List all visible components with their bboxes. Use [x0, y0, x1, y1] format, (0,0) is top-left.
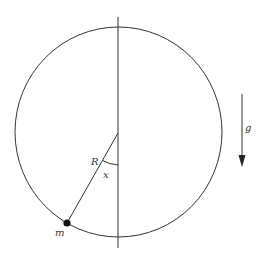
diagram-svg: R x m g [0, 0, 264, 254]
angle-label: x [103, 169, 109, 180]
radius-label: R [90, 156, 99, 167]
pendulum-hoop-diagram: R x m g [0, 0, 264, 254]
angle-arc [103, 161, 119, 166]
mass-bead [63, 219, 70, 226]
gravity-arrow-head-icon [239, 155, 246, 167]
radius-line [67, 133, 118, 223]
mass-label: m [55, 227, 64, 238]
gravity-label: g [245, 122, 251, 133]
